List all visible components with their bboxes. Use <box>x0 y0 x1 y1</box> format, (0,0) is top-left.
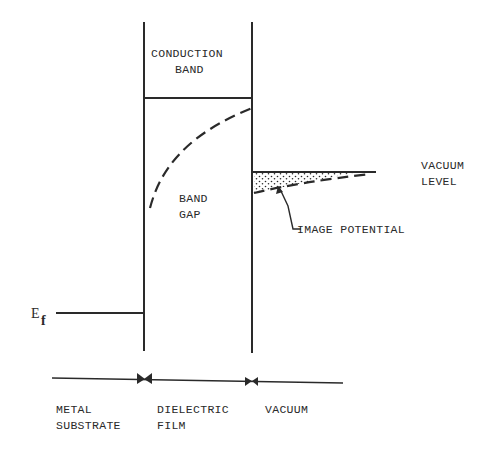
axis-arrow-2b <box>252 377 258 386</box>
conduction-label-1: CONDUCTION <box>151 47 223 60</box>
image-potential-label: IMAGE POTENTIAL <box>297 223 405 236</box>
fermi-label-main: E <box>31 306 40 321</box>
region-axis <box>52 378 343 383</box>
region-label-film-2: FILM <box>157 419 186 432</box>
axis-arrow-1a <box>137 373 145 384</box>
band-gap-label-1: BAND <box>179 192 208 205</box>
region-label-metal-2: SUBSTRATE <box>56 419 121 432</box>
vacuum-level-label-1: VACUUM <box>421 159 464 172</box>
band-diagram: CONDUCTION BAND BAND GAP VACUUM LEVEL IM… <box>0 0 494 456</box>
region-label-vacuum: VACUUM <box>265 403 308 416</box>
conduction-label-2: BAND <box>175 63 204 76</box>
region-label-film-1: DIELECTRIC <box>157 403 229 416</box>
axis-arrow-2a <box>245 377 252 386</box>
axis-arrow-1b <box>144 373 152 384</box>
region-label-metal-1: METAL <box>56 403 92 416</box>
fermi-label-sub: f <box>41 313 46 328</box>
vacuum-level-label-2: LEVEL <box>421 175 457 188</box>
band-gap-label-2: GAP <box>179 208 201 221</box>
